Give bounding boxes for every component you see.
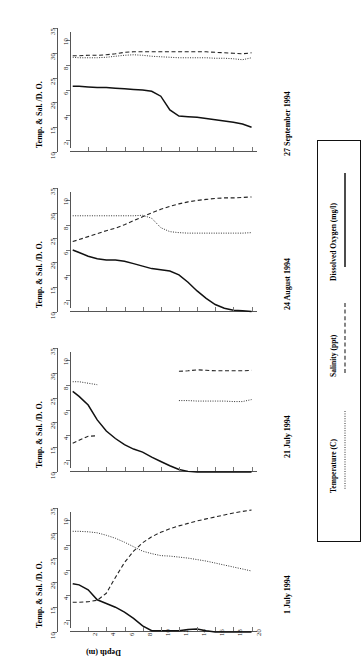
depth-axis-tick	[161, 467, 162, 471]
depth-axis-tick	[215, 147, 216, 151]
depth-axis-tick	[252, 307, 253, 311]
inner-axis-tick-label: 4	[62, 116, 69, 119]
depth-axis-tick-label: 2	[91, 633, 98, 636]
legend-swatch-salinity	[340, 301, 350, 377]
series-dissolved-oxygen-1	[73, 86, 252, 127]
curves-4	[57, 508, 257, 632]
plot-area-4: 101520253035246810Temp. & Sal. /D. O.	[57, 508, 257, 632]
panel-date-2: 24 August 1994	[283, 258, 292, 310]
outer-axis-tick-label: 10	[49, 472, 56, 479]
depth-axis-tick	[233, 627, 234, 631]
line-dissolved-oxygen	[73, 584, 252, 632]
depth-axis-tick-label: 18	[236, 629, 243, 636]
depth-axis-tick	[125, 307, 126, 311]
depth-axis-tick-label: 14	[200, 629, 207, 636]
depth-axis-tick-label: 4	[109, 633, 116, 636]
depth-axis-tick	[88, 627, 89, 631]
depth-axis-tick	[106, 467, 107, 471]
depth-axis-tick-label: 12	[182, 629, 189, 636]
inner-axis-tick-label: 8	[62, 387, 69, 390]
series-temperature-4	[73, 531, 252, 571]
depth-axis-tick	[143, 307, 144, 311]
panel-24-august-1994: 101520253035246810Temp. & Sal. /D. O. 24…	[0, 168, 363, 328]
plot-area-1: 101520253035246810Temp. & Sal. /D. O.	[57, 28, 257, 152]
depth-axis-tick	[179, 307, 180, 311]
depth-axis-tick	[106, 307, 107, 311]
outer-axis-tick-label: 35	[49, 348, 56, 355]
depth-axis-tick	[125, 147, 126, 151]
series-dissolved-oxygen-4	[73, 584, 252, 632]
outer-axis-tick-label: 30	[49, 373, 56, 380]
depth-axis-tick	[197, 147, 198, 151]
outer-axis-tick-label: 10	[49, 152, 56, 159]
inner-axis-tick-label: 6	[62, 92, 69, 95]
legend-label-dissolved-oxygen: Dissolved Oxygen (mg/l)	[329, 203, 338, 281]
depth-axis-tick	[252, 147, 253, 151]
depth-axis-tick	[215, 467, 216, 471]
depth-axis-tick	[143, 467, 144, 471]
inner-axis-tick-label: 8	[62, 67, 69, 70]
panel-date-4: 1 July 1994	[283, 575, 292, 614]
plot-area-3: 101520253035246810Temp. & Sal. /D. O.	[57, 348, 257, 472]
depth-axis-tick	[252, 627, 253, 631]
curves-2	[57, 188, 257, 312]
line-salinity	[73, 197, 252, 242]
inner-axis-tick-label: 10	[62, 518, 69, 525]
depth-axis-tick	[88, 147, 89, 151]
inner-axis-tick	[66, 140, 70, 141]
depth-axis-tick	[106, 147, 107, 151]
outer-axis-tick-label: 35	[49, 188, 56, 195]
y-axis-title: Temp. & Sal. /D. O.	[35, 241, 44, 308]
series-dissolved-oxygen-3	[73, 391, 252, 472]
inner-axis-tick-label: 6	[62, 572, 69, 575]
panel-27-september-1994: 101520253035246810Temp. & Sal. /D. O. 27…	[0, 8, 363, 168]
depth-axis-tick	[161, 307, 162, 311]
outer-axis-tick-label: 35	[49, 508, 56, 515]
series-dissolved-oxygen-2	[73, 250, 252, 311]
line-salinity	[73, 52, 252, 56]
series-salinity-2	[73, 197, 252, 242]
depth-axis-tick	[125, 627, 126, 631]
curves-3	[57, 348, 257, 472]
legend-label-salinity: Salinity (ppt)	[329, 335, 338, 377]
legend-swatch-dissolved-oxygen	[340, 171, 350, 271]
inner-axis-tick-label: 4	[62, 436, 69, 439]
depth-axis-tick	[179, 467, 180, 471]
line-temperature	[73, 382, 252, 402]
figure-root: 101520253035246810Temp. & Sal. /D. O. 27…	[0, 0, 363, 670]
outer-axis-tick-label: 20	[49, 262, 56, 269]
depth-axis-tick-label: 6	[128, 633, 135, 636]
outer-axis-tick-label: 25	[49, 238, 56, 245]
outer-axis-tick-label: 15	[49, 127, 56, 134]
depth-axis-tick	[215, 307, 216, 311]
outer-axis-tick-label: 25	[49, 78, 56, 85]
inner-axis-tick-label: 2	[62, 621, 69, 624]
depth-axis-tick	[197, 307, 198, 311]
line-salinity	[73, 370, 252, 443]
depth-axis-tick-label: 20	[255, 629, 262, 636]
legend-swatch-temperature	[340, 409, 350, 493]
legend-label-temperature: Temperature (C)	[329, 439, 338, 493]
outer-axis-tick-label: 30	[49, 533, 56, 540]
plot-area-2: 101520253035246810Temp. & Sal. /D. O.	[57, 188, 257, 312]
outer-axis-tick-label: 15	[49, 607, 56, 614]
inner-axis-tick-label: 2	[62, 141, 69, 144]
inner-axis-tick-label: 6	[62, 252, 69, 255]
series-salinity-3	[73, 370, 252, 443]
inner-axis-tick-label: 8	[62, 547, 69, 550]
outer-axis-tick-label: 20	[49, 422, 56, 429]
depth-axis-tick-label: 10	[164, 629, 171, 636]
depth-axis-tick	[143, 147, 144, 151]
inner-axis-tick	[66, 460, 70, 461]
depth-axis-tick	[161, 627, 162, 631]
depth-axis-tick	[106, 627, 107, 631]
depth-axis-tick	[197, 467, 198, 471]
x-axis-title: Depth (m)	[86, 648, 121, 657]
depth-axis-tick	[197, 627, 198, 631]
outer-axis-tick-label: 20	[49, 102, 56, 109]
inner-axis-tick-label: 4	[62, 596, 69, 599]
series-temperature-2	[73, 215, 252, 233]
depth-axis-tick	[88, 467, 89, 471]
line-dissolved-oxygen	[73, 86, 252, 127]
outer-axis-tick-label: 20	[49, 582, 56, 589]
